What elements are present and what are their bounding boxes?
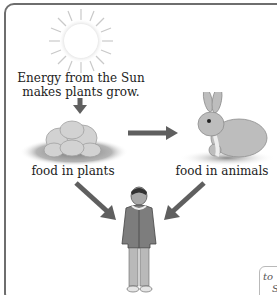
arrow-right-icon <box>128 126 178 140</box>
sun-caption-line2: makes plants grow. <box>8 85 154 99</box>
rabbit-image <box>175 92 275 166</box>
sun-icon <box>48 8 114 74</box>
side-note-text-line2: S <box>272 283 277 294</box>
lettuce-plant-image <box>20 118 128 166</box>
boy-image <box>114 186 164 294</box>
food-in-animals-label: food in animals <box>166 164 277 178</box>
sun-caption-line1: Energy from the Sun <box>8 71 154 85</box>
arrow-diagonal-down-left-icon <box>162 181 206 221</box>
arrow-diagonal-down-right-icon <box>74 181 118 221</box>
side-note-text-line1: to <box>263 271 273 283</box>
food-in-plants-label: food in plants <box>18 164 128 178</box>
arrow-down-icon <box>73 98 87 114</box>
